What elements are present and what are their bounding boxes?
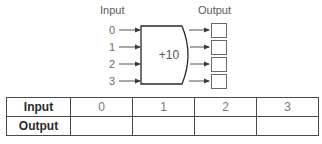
input-cell-3: 3 [257,98,319,117]
input-cell-0: 0 [71,98,133,117]
input-output-table: Input 0 1 2 3 Output [6,97,319,136]
input-cell-2: 2 [195,98,257,117]
output-cell-2[interactable] [195,117,257,136]
output-cell-0[interactable] [71,117,133,136]
input-cell-1: 1 [133,98,195,117]
output-box-3[interactable] [211,74,227,89]
output-box-1[interactable] [211,40,227,55]
output-box-2[interactable] [211,57,227,72]
input-value-1: 1 [105,41,115,53]
input-value-3: 3 [105,75,115,87]
output-cell-3[interactable] [257,117,319,136]
table-row-input: Input 0 1 2 3 [7,98,319,117]
output-cell-1[interactable] [133,117,195,136]
input-value-2: 2 [105,58,115,70]
diagram-input-label: Input [100,4,124,16]
row-header-output: Output [7,117,71,136]
row-header-input: Input [7,98,71,117]
operation-label: +10 [149,48,189,62]
input-arrows [119,30,140,81]
input-value-0: 0 [105,24,115,36]
function-machine-diagram: Input Output 0 1 2 3 +10 [0,0,322,95]
output-arrows [189,30,209,81]
table-row-output: Output [7,117,319,136]
output-box-0[interactable] [211,23,227,38]
diagram-output-label: Output [198,4,231,16]
